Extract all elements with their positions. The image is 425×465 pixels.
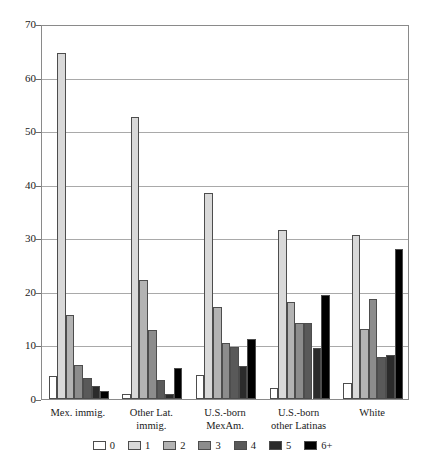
legend-item[interactable]: 2 [163,440,185,451]
bar-group [196,26,256,399]
bar [74,365,83,399]
x-category-label-line: other Latinas [254,419,344,432]
bar [174,368,183,399]
bar [165,394,174,399]
bar [304,323,313,399]
bar [100,391,109,399]
legend-item[interactable]: 5 [269,440,291,451]
bar [278,230,287,399]
bar [222,343,231,399]
y-tick-label: 0 [2,394,36,405]
bar [83,378,92,399]
bar-chart-figure: 010203040506070 Mex. immig.Other Lat.imm… [0,0,425,465]
bar [139,280,148,399]
legend-label: 3 [215,440,220,451]
bar [131,117,140,399]
legend-swatch [304,441,317,450]
y-tick-mark [35,400,41,401]
bar-group [49,26,109,399]
bar [196,375,205,399]
bar [270,388,279,399]
legend-item[interactable]: 3 [198,440,220,451]
bar [148,330,157,399]
y-tick-label: 20 [2,287,36,298]
bar [92,386,101,399]
legend-swatch [128,441,141,450]
legend-label: 2 [180,440,185,451]
legend-label: 5 [286,440,291,451]
legend-swatch [234,441,247,450]
legend-item[interactable]: 1 [128,440,150,451]
y-tick-label: 10 [2,340,36,351]
x-category-label-line: White [327,406,417,419]
bar [122,394,131,399]
legend-swatch [163,441,176,450]
legend-swatch [269,441,282,450]
bar [57,53,66,399]
chart-legend: 0123456+ [0,440,425,451]
legend-swatch [198,441,211,450]
legend-item[interactable]: 4 [234,440,256,451]
bar [157,380,166,399]
bar [321,295,330,399]
bar [213,307,222,399]
bars-layer [42,26,408,399]
y-tick-label: 30 [2,233,36,244]
legend-label: 4 [251,440,256,451]
bar [377,357,386,399]
bar [386,355,395,399]
bar [395,249,404,399]
bar [239,366,248,399]
legend-label: 1 [145,440,150,451]
bar [247,339,256,399]
bar-group [343,26,403,399]
y-tick-label: 40 [2,180,36,191]
x-category-label: White [327,406,417,419]
bar [49,376,58,399]
bar [313,348,322,399]
bar [360,329,369,399]
legend-label: 0 [110,440,115,451]
legend-item[interactable]: 6+ [304,440,332,451]
legend-label: 6+ [321,440,332,451]
bar [287,302,296,400]
bar [66,315,75,399]
bar [295,323,304,399]
bar [369,299,378,399]
legend-swatch [93,441,106,450]
legend-item[interactable]: 0 [93,440,115,451]
bar [343,383,352,399]
bar-group [270,26,330,399]
bar [204,193,213,399]
bar [230,347,239,400]
bar [352,235,361,399]
plot-area [41,25,409,400]
bar-group [122,26,182,399]
y-tick-label: 70 [2,19,36,30]
y-tick-label: 50 [2,126,36,137]
y-tick-label: 60 [2,73,36,84]
